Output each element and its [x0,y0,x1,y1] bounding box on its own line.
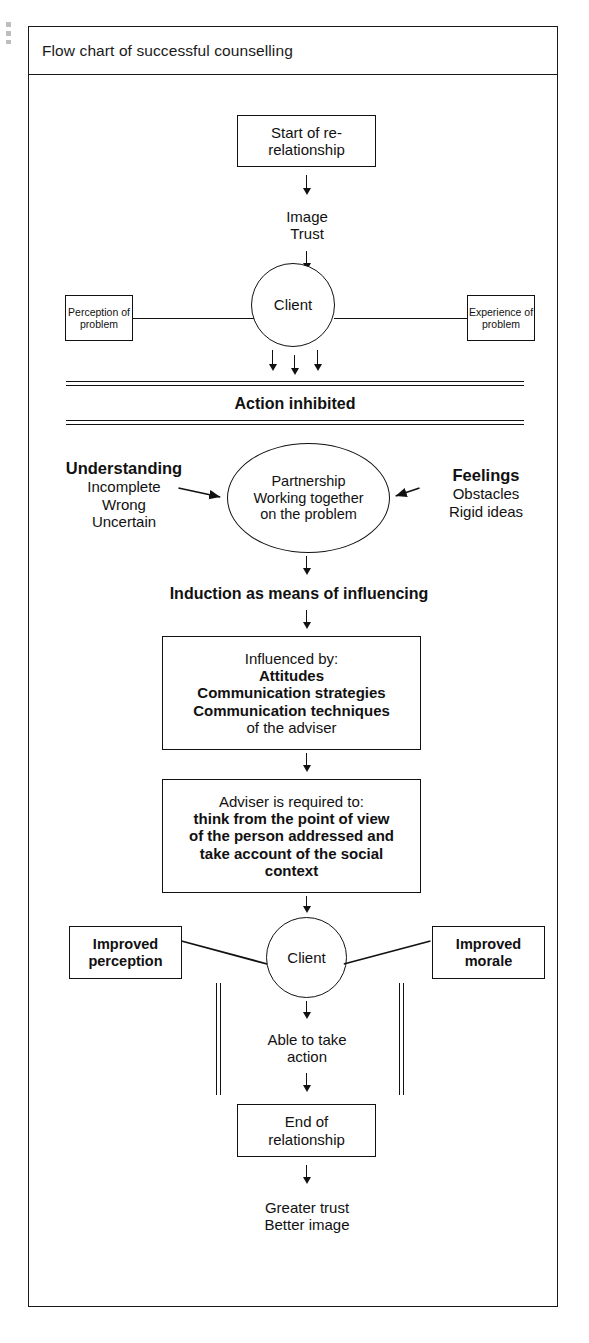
node-client-bottom-label: Client [287,949,325,966]
node-experience-line1: Experience of [469,306,533,318]
node-feelings: Feelings Obstacles Rigid ideas [425,458,547,528]
node-understanding-heading: Understanding [66,459,182,478]
node-influenced-line1: Influenced by: [245,650,338,667]
node-outcome-line2: Better image [264,1216,349,1233]
node-adviser-line3: of the person addressed and [189,827,394,844]
node-induction-label: Induction as means of influencing [170,585,429,604]
node-improved-perception-line2: perception [88,953,162,970]
arrowhead-influenced-to-adviser [303,765,311,772]
node-client-bottom: Client [266,917,347,998]
arrowhead-action-to-end [303,1085,311,1092]
node-improved-morale-line1: Improved [456,936,521,953]
arrowhead-client-to-action [303,1012,311,1019]
node-understanding-line3: Uncertain [92,513,156,530]
node-understanding-line2: Wrong [102,496,146,513]
node-start-line1: Start of re- [271,124,342,141]
node-induction: Induction as means of influencing [89,581,509,607]
node-influenced-line2: Attitudes [259,667,324,684]
node-image-trust-line2: Trust [290,225,324,242]
node-end-of-relationship: End of relationship [237,1104,376,1157]
arrowhead-adviser-to-client [303,906,311,913]
node-understanding: Understanding Incomplete Wrong Uncertain [49,453,199,537]
divider-below-action-inhibited [66,420,524,425]
node-partnership-line3: on the problem [260,506,357,523]
node-feelings-line2: Rigid ideas [449,503,523,520]
node-influenced-line4: Communication techniques [193,702,390,719]
scan-artifact [6,22,11,44]
arrowhead-client-down-1 [269,364,277,371]
node-image-trust: Image Trust [251,201,363,249]
node-feelings-heading: Feelings [453,466,520,485]
flowchart-canvas: Start of re- relationship Image Trust Pe… [29,75,557,1306]
divider-right-of-action [399,983,404,1095]
node-client-top-label: Client [274,296,312,313]
arrowhead-end-to-outcome [303,1177,311,1184]
node-experience-line2: problem [482,318,520,330]
node-action-inhibited-label: Action inhibited [235,395,356,414]
arrowhead-induction-to-influenced [303,622,311,629]
connector-client-to-improved-morale [344,941,431,964]
arrowhead-client-down-2 [291,368,299,375]
node-partnership-line2: Working together [253,490,363,507]
figure-frame: Flow chart of successful counselling Sta… [28,26,558,1307]
node-feelings-line1: Obstacles [453,485,520,502]
divider-above-action-inhibited [66,381,524,386]
node-improved-perception: Improved perception [69,926,182,979]
figure-page: Flow chart of successful counselling Sta… [0,0,589,1343]
node-partnership: Partnership Working together on the prob… [227,443,390,553]
connector-improved-perception-to-client [181,941,267,964]
node-outcome-line1: Greater trust [265,1199,349,1216]
node-partnership-line1: Partnership [271,473,345,490]
node-adviser-line1: Adviser is required to: [219,793,364,810]
node-influenced-line3: Communication strategies [197,684,385,701]
node-able-line1: Able to take [267,1031,346,1048]
node-able-to-take-action: Able to take action [229,1025,385,1071]
node-improved-morale: Improved morale [432,926,545,979]
node-outcome: Greater trust Better image [219,1192,395,1240]
node-adviser-line4: take account of the social [200,845,383,862]
arrowhead-start-to-image [303,188,311,195]
connector-client-to-experience [334,318,468,319]
node-end-line2: relationship [268,1131,345,1148]
node-understanding-line1: Incomplete [87,478,160,495]
arrowhead-partnership-to-induction [303,568,311,575]
node-end-line1: End of [285,1113,328,1130]
node-improved-perception-line1: Improved [93,936,158,953]
page-title: Flow chart of successful counselling [42,42,293,60]
node-start-line2: relationship [268,141,345,158]
node-image-trust-line1: Image [286,208,328,225]
node-start-of-relationship: Start of re- relationship [237,115,376,167]
node-client-top: Client [251,263,335,347]
node-perception-of-problem: Perception of problem [65,295,133,341]
divider-left-of-action [216,983,221,1095]
node-influenced-line5: of the adviser [246,719,336,736]
figure-title-bar: Flow chart of successful counselling [29,27,557,75]
arrowhead-client-down-3 [314,364,322,371]
node-perception-line2: problem [80,318,118,330]
node-adviser-line2: think from the point of view [194,810,390,827]
node-adviser-required: Adviser is required to: think from the p… [162,779,421,893]
node-adviser-line5: context [265,862,318,879]
node-able-line2: action [287,1048,327,1065]
node-improved-morale-line2: morale [465,953,513,970]
node-action-inhibited: Action inhibited [66,388,524,420]
node-influenced-by: Influenced by: Attitudes Communication s… [162,636,421,750]
node-experience-of-problem: Experience of problem [467,295,535,341]
arrow-feelings-to-partnership [396,488,420,496]
node-perception-line1: Perception of [68,306,130,318]
